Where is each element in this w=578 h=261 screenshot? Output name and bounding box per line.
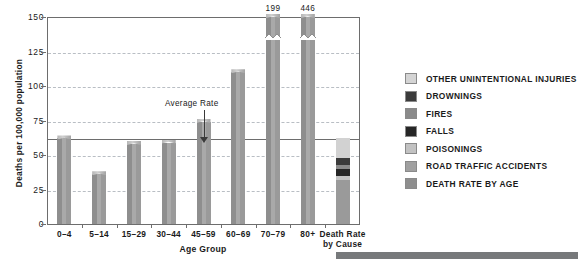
x-axis-tick-mark — [82, 224, 83, 228]
legend-swatch — [405, 108, 417, 119]
bar — [231, 72, 245, 224]
legend-swatch — [405, 73, 417, 84]
x-axis-tick-mark — [325, 224, 326, 228]
stacked-bar-segment — [336, 180, 350, 224]
legend-label: OTHER UNINTENTIONAL INJURIES — [426, 74, 577, 84]
bar-face — [57, 138, 71, 224]
bar-chart: Deaths per 100,000 population 0255075100… — [0, 0, 578, 261]
x-axis-line — [47, 224, 360, 225]
average-rate-label: Average Rate — [165, 99, 219, 108]
y-axis-tick-mark — [41, 52, 46, 53]
bar — [127, 144, 141, 224]
stacked-bar-segment — [336, 138, 350, 157]
bar — [92, 174, 106, 224]
x-axis-tick-mark — [151, 224, 152, 228]
legend-item[interactable]: DEATH RATE BY AGE — [405, 175, 577, 193]
legend-label: ROAD TRAFFIC ACCIDENTS — [426, 161, 547, 171]
bar — [266, 17, 280, 224]
bar-face — [266, 17, 280, 224]
bar-face — [301, 17, 315, 224]
y-axis-tick-mark — [41, 17, 46, 18]
stacked-bar-death-rate-by-cause — [336, 138, 350, 224]
x-axis-tick-mark — [186, 224, 187, 228]
bar — [57, 138, 71, 224]
legend-item[interactable]: ROAD TRAFFIC ACCIDENTS — [405, 158, 577, 176]
bar — [162, 143, 176, 224]
legend-item[interactable]: FIRES — [405, 105, 577, 123]
y-axis-tick-mark — [41, 86, 46, 87]
y-axis-tick-mark — [41, 121, 46, 122]
y-axis-tick-label: 75 — [8, 116, 44, 126]
y-axis-tick-mark — [41, 155, 46, 156]
legend-label: DEATH RATE BY AGE — [426, 179, 519, 189]
y-axis-tick-label: 50 — [8, 150, 44, 160]
stacked-bar-segment — [336, 169, 350, 176]
stacked-bar-label-line1: Death Rate — [319, 229, 365, 239]
legend-label: POISONINGS — [426, 144, 483, 154]
bar-face — [127, 144, 141, 224]
legend-item[interactable]: OTHER UNINTENTIONAL INJURIES — [405, 70, 577, 88]
bar-face — [92, 174, 106, 224]
legend-swatch — [405, 161, 417, 172]
x-axis-tick-mark — [221, 224, 222, 228]
y-axis-tick-mark — [41, 190, 46, 191]
legend-item[interactable]: POISONINGS — [405, 140, 577, 158]
y-axis-tick-label: 150 — [8, 12, 44, 22]
x-axis-tick-mark — [290, 224, 291, 228]
stacked-bar-segment — [336, 158, 350, 165]
stacked-bar-label-line2: by Cause — [323, 239, 362, 249]
legend-label: FIRES — [426, 109, 452, 119]
legend-label: DROWNINGS — [426, 91, 482, 101]
y-axis-ticks: 0255075100125150 — [0, 0, 44, 261]
bar-value-label: 446 — [288, 4, 328, 13]
bar — [301, 17, 315, 224]
legend-swatch — [405, 91, 417, 102]
bar-face — [231, 72, 245, 224]
chart-legend: OTHER UNINTENTIONAL INJURIESDROWNINGSFIR… — [405, 70, 577, 193]
y-axis-tick-label: 0 — [8, 219, 44, 229]
legend-swatch — [405, 178, 417, 189]
y-axis-tick-label: 125 — [8, 47, 44, 57]
y-axis-tick-label: 25 — [8, 185, 44, 195]
legend-swatch — [405, 126, 417, 137]
bar-face — [162, 143, 176, 224]
legend-item[interactable]: FALLS — [405, 123, 577, 141]
legend-label: FALLS — [426, 126, 454, 136]
average-rate-arrow-head — [200, 137, 208, 143]
y-axis-tick-mark — [41, 224, 46, 225]
x-axis-tick-mark — [117, 224, 118, 228]
footer-rule — [336, 252, 578, 259]
axis-break-mark — [300, 26, 316, 33]
x-axis-tick-label-death-rate-by-cause: Death Rateby Cause — [308, 229, 378, 249]
legend-swatch — [405, 143, 417, 154]
legend-item[interactable]: DROWNINGS — [405, 88, 577, 106]
axis-break-mark — [265, 26, 281, 33]
y-axis-tick-label: 100 — [8, 81, 44, 91]
x-axis-tick-mark — [256, 224, 257, 228]
x-axis-title: Age Group — [133, 244, 273, 254]
